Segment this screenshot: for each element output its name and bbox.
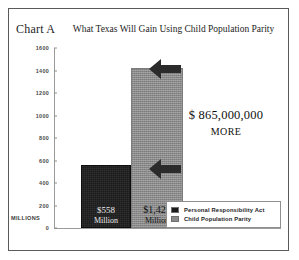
y-axis-tick-label: 1200 <box>36 90 49 96</box>
legend-swatch-icon <box>171 207 179 213</box>
y-axis-tick-mark <box>54 183 57 184</box>
legend-item-personal-responsibility-act: Personal Responsibility Act <box>171 206 276 214</box>
chart-legend: Personal Responsibility Act Child Popula… <box>166 201 281 228</box>
y-axis-tick-mark <box>54 115 57 116</box>
bar-personal-responsibility-act: $558 Million <box>81 165 131 228</box>
y-axis-tick-label: 200 <box>39 203 49 209</box>
y-axis-tick-mark <box>54 228 57 229</box>
y-axis-tick-label: 600 <box>39 158 49 164</box>
x-axis-baseline <box>54 228 281 229</box>
y-axis-tick-mark <box>54 93 57 94</box>
y-axis-tick-mark <box>54 48 57 49</box>
y-axis-tick-label: 800 <box>39 135 49 141</box>
y-axis-tick-label: 1400 <box>36 68 49 74</box>
legend-swatch-icon <box>171 216 179 222</box>
y-axis-tick-label: 400 <box>39 180 49 186</box>
arrow-left-icon <box>148 58 182 84</box>
y-axis-tick-label: 1600 <box>36 45 49 51</box>
bar-pra-unit-label: Million <box>82 217 130 225</box>
y-axis-tick-label: 0 <box>46 225 49 231</box>
y-axis-tick-mark <box>54 160 57 161</box>
y-axis-unit-label: MILLIONS <box>11 215 40 221</box>
annotation-more-label: MORE <box>170 126 282 137</box>
y-axis-tick-mark <box>54 138 57 139</box>
chart-title: What Texas Will Gain Using Child Populat… <box>66 24 281 34</box>
legend-label: Child Population Parity <box>184 216 251 222</box>
legend-label: Personal Responsibility Act <box>184 207 265 213</box>
arrow-left-icon <box>148 158 182 184</box>
y-axis-tick-mark <box>54 205 57 206</box>
y-axis-tick-label: 1000 <box>36 113 49 119</box>
chart-figure: Chart A What Texas Will Gain Using Child… <box>0 0 299 260</box>
difference-annotation: $ 865,000,000 MORE <box>170 108 282 137</box>
annotation-amount: $ 865,000,000 <box>170 108 282 123</box>
chart-label: Chart A <box>16 22 55 37</box>
legend-item-child-population-parity: Child Population Parity <box>171 215 276 223</box>
bar-pra-value-label: $558 <box>82 206 130 215</box>
y-axis-tick-mark <box>54 70 57 71</box>
